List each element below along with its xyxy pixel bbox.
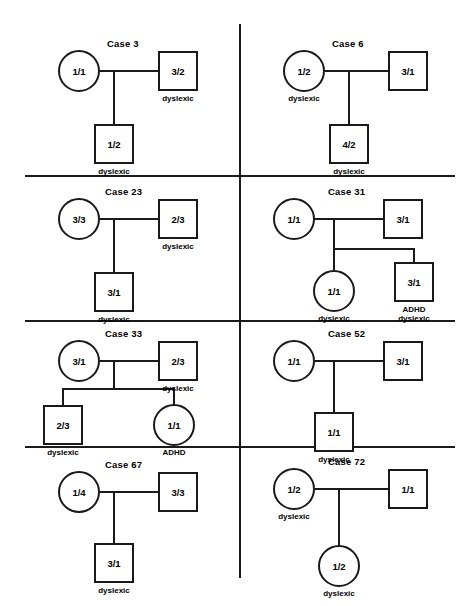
sibship-line [333, 248, 415, 250]
sibling-drop-1 [62, 388, 64, 405]
descent-line [113, 491, 115, 543]
descent-line [113, 360, 115, 390]
descent-line [333, 360, 335, 412]
pedigree-case-23: Case 23 3/3 2/3 dyslexic 3/1 dyslexic [25, 178, 240, 328]
child-symbol-1[interactable]: 3/1 [94, 543, 134, 583]
father-affection-label: dyslexic [138, 94, 218, 104]
father-symbol[interactable]: 3/1 [388, 51, 428, 91]
mother-affection-label: dyslexic [254, 512, 334, 522]
child-affection-label-1: dyslexic [299, 589, 379, 599]
mating-line [314, 218, 383, 220]
father-symbol[interactable]: 3/2 [158, 51, 198, 91]
case-title: Case 31 [328, 186, 365, 197]
descent-line [348, 70, 350, 124]
pedigree-case-72: Case 72 1/2 dyslexic 1/1 1/2 dyslexic [245, 449, 460, 599]
descent-line [333, 218, 335, 250]
mother-symbol[interactable]: 1/2 [273, 468, 315, 510]
father-affection-label: dyslexic [138, 384, 218, 394]
child-symbol-1[interactable]: 1/2 [318, 545, 360, 587]
mother-affection-label: dyslexic [264, 94, 344, 104]
child-symbol-2[interactable]: 3/1 [394, 262, 434, 302]
descent-line [338, 488, 340, 545]
case-title: Case 33 [105, 328, 142, 339]
pedigree-case-67: Case 67 1/4 3/3 3/1 dyslexic [25, 449, 240, 599]
child-symbol-1[interactable]: 4/2 [329, 124, 369, 164]
father-affection-label: dyslexic [138, 242, 218, 252]
child-symbol-1[interactable]: 1/2 [94, 124, 134, 164]
child-symbol-1[interactable]: 1/1 [313, 270, 355, 312]
child-affection-label-1: dyslexic [74, 315, 154, 325]
mother-symbol[interactable]: 1/2 [283, 50, 325, 92]
case-title: Case 6 [332, 38, 364, 49]
child-affection-label-1: dyslexic [294, 314, 374, 324]
mother-symbol[interactable]: 3/1 [58, 340, 100, 382]
case-title: Case 23 [105, 186, 142, 197]
mother-symbol[interactable]: 1/1 [273, 198, 315, 240]
case-title: Case 3 [107, 38, 139, 49]
child-affection-label-1: dyslexic [294, 455, 374, 465]
mother-symbol[interactable]: 1/1 [273, 340, 315, 382]
child-affection-label-1: dyslexic [74, 167, 154, 177]
mother-symbol[interactable]: 1/4 [58, 471, 100, 513]
child-affection-label-2-line2: dyslexic [374, 314, 454, 324]
mother-symbol[interactable]: 3/3 [58, 198, 100, 240]
child-affection-label-1: dyslexic [23, 448, 103, 458]
child-symbol-1[interactable]: 1/1 [314, 412, 354, 452]
sibling-drop-1 [333, 248, 335, 270]
case-title: Case 52 [328, 328, 365, 339]
pedigree-figure: Case 3 1/1 3/2 dyslexic 1/2 dyslexic Cas… [0, 0, 475, 606]
mother-symbol[interactable]: 1/1 [58, 50, 100, 92]
father-symbol[interactable]: 2/3 [158, 341, 198, 381]
descent-line [113, 218, 115, 272]
child-affection-label-1: dyslexic [309, 167, 389, 177]
child-symbol-1[interactable]: 2/3 [43, 405, 83, 445]
father-symbol[interactable]: 3/3 [158, 472, 198, 512]
mating-line [99, 360, 159, 362]
descent-line [113, 70, 115, 124]
father-symbol[interactable]: 3/1 [383, 341, 423, 381]
father-symbol[interactable]: 2/3 [158, 199, 198, 239]
case-title: Case 67 [105, 459, 142, 470]
pedigree-case-6: Case 6 1/2 dyslexic 3/1 4/2 dyslexic [245, 26, 460, 176]
mating-line [314, 488, 388, 490]
child-affection-label-2: ADHD [134, 448, 214, 458]
child-affection-label-1: dyslexic [74, 586, 154, 596]
sibling-drop-2 [413, 248, 415, 262]
father-symbol[interactable]: 1/1 [388, 469, 428, 509]
mating-line [99, 491, 159, 493]
father-symbol[interactable]: 3/1 [383, 199, 423, 239]
child-symbol-1[interactable]: 3/1 [94, 272, 134, 312]
mating-line [314, 360, 383, 362]
child-symbol-2[interactable]: 1/1 [153, 404, 195, 446]
pedigree-case-3: Case 3 1/1 3/2 dyslexic 1/2 dyslexic [25, 26, 240, 176]
mating-line [324, 70, 388, 72]
mating-line [99, 70, 159, 72]
pedigree-case-31: Case 31 1/1 3/1 1/1 dyslexic 3/1 ADHD dy… [245, 178, 460, 328]
mating-line [99, 218, 159, 220]
